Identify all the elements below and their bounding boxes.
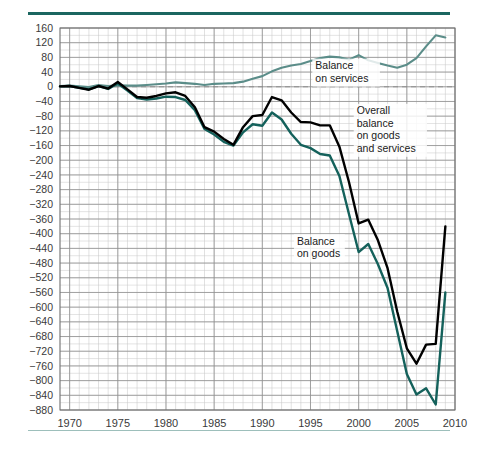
y-tick-label: −320 (29, 198, 53, 210)
x-tick-label: 1985 (202, 417, 226, 429)
y-axis-labels: 16012080400−40−80−120−160−200−240−280−32… (29, 22, 53, 416)
y-tick-label: −880 (29, 404, 53, 416)
annotation-label: on goods (357, 129, 400, 141)
x-tick-label: 1995 (298, 417, 322, 429)
y-tick-label: −760 (29, 360, 53, 372)
y-tick-label: −400 (29, 227, 53, 239)
x-tick-label: 1990 (250, 417, 274, 429)
chart-figure: 16012080400−40−80−120−160−200−240−280−32… (0, 0, 483, 452)
x-tick-label: 1970 (57, 417, 81, 429)
y-tick-label: −160 (29, 139, 53, 151)
y-tick-label: −40 (35, 95, 53, 107)
y-tick-label: 80 (41, 51, 53, 63)
y-tick-label: −360 (29, 213, 53, 225)
y-tick-label: −720 (29, 345, 53, 357)
y-tick-label: −280 (29, 183, 53, 195)
y-tick-label: −200 (29, 154, 53, 166)
header-rule (28, 12, 450, 15)
y-tick-label: −480 (29, 257, 53, 269)
footer-rule (28, 430, 450, 431)
x-tick-label: 2000 (346, 417, 370, 429)
x-tick-label: 2005 (395, 417, 419, 429)
y-tick-label: −120 (29, 124, 53, 136)
y-tick-label: −840 (29, 389, 53, 401)
x-tick-label: 1980 (154, 417, 178, 429)
annotation-label: Overall (357, 104, 390, 116)
y-tick-label: 160 (35, 22, 53, 34)
y-tick-label: −240 (29, 169, 53, 181)
annotation-label: and services (357, 142, 416, 154)
annotation-label: on services (315, 72, 368, 84)
annotation-label: balance (357, 117, 394, 129)
annotation-label: Balance (297, 235, 335, 247)
annotation-label: on goods (297, 247, 340, 259)
y-tick-label: 40 (41, 66, 53, 78)
y-tick-label: −800 (29, 374, 53, 386)
y-tick-label: 120 (35, 36, 53, 48)
x-tick-label: 1975 (106, 417, 130, 429)
line-chart: 16012080400−40−80−120−160−200−240−280−32… (0, 0, 483, 452)
x-axis-labels: 197019751980198519901995200020052010 (57, 417, 467, 429)
y-tick-label: −680 (29, 330, 53, 342)
y-tick-label: −440 (29, 242, 53, 254)
y-tick-label: −80 (35, 110, 53, 122)
y-tick-label: −560 (29, 286, 53, 298)
x-tick-label: 2010 (443, 417, 467, 429)
y-tick-label: −520 (29, 271, 53, 283)
annotation-label: Balance (315, 59, 353, 71)
y-tick-label: 0 (47, 80, 53, 92)
y-tick-label: −600 (29, 301, 53, 313)
y-tick-label: −640 (29, 315, 53, 327)
